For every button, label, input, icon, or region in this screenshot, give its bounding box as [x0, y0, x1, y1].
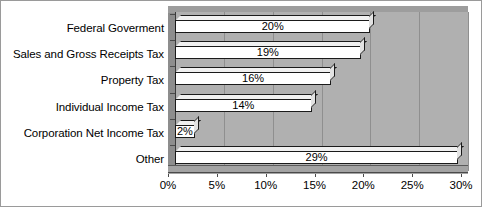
category-label: Property Tax: [1, 74, 168, 87]
bar: 2%: [175, 125, 195, 138]
y-axis-tick: [170, 93, 175, 94]
y-axis-tick: [170, 66, 175, 67]
bar: 20%: [175, 20, 370, 33]
bar: 19%: [175, 46, 361, 59]
bar-value-label: 20%: [175, 20, 370, 33]
gridline: [468, 12, 469, 171]
x-axis-tick-label: 5%: [195, 179, 239, 191]
y-axis-line: [175, 12, 176, 171]
category-label: Corporation Net Income Tax: [1, 127, 168, 140]
bar-value-label: 14%: [175, 99, 312, 112]
y-axis-tick: [170, 14, 175, 15]
bar: 14%: [175, 99, 312, 112]
x-axis-tick-label: 25%: [390, 179, 434, 191]
y-axis-tick: [170, 119, 175, 120]
bar-value-label: 2%: [177, 125, 219, 138]
bar-value-label: 29%: [175, 151, 458, 164]
chart-frame: Federal GovermentSales and Gross Receipt…: [0, 0, 482, 207]
x-axis-tick-label: 10%: [244, 179, 288, 191]
bar-value-label: 19%: [175, 46, 361, 59]
x-axis-tick-label: 15%: [293, 179, 337, 191]
category-label: Other: [1, 153, 168, 166]
x-axis-tick-label: 20%: [341, 179, 385, 191]
category-label-column: Federal GovermentSales and Gross Receipt…: [1, 9, 168, 165]
y-axis-tick: [170, 40, 175, 41]
bar: 29%: [175, 151, 458, 164]
bar-value-label: 16%: [175, 72, 331, 85]
bar: 16%: [175, 72, 331, 85]
category-label: Sales and Gross Receipts Tax: [1, 48, 168, 61]
category-label: Individual Income Tax: [1, 101, 168, 114]
x-axis-line: [168, 172, 468, 173]
x-axis-tick-label: 30%: [439, 179, 482, 191]
category-label: Federal Goverment: [1, 22, 168, 35]
x-axis-tick-label: 0%: [146, 179, 190, 191]
y-axis-tick: [170, 145, 175, 146]
